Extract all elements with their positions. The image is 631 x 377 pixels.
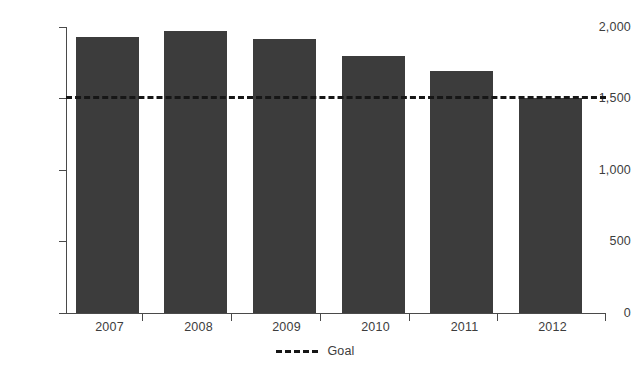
x-tick-label-2009: 2009 (245, 321, 328, 334)
x-tick-mark-2010 (409, 314, 410, 321)
plot-area (66, 27, 606, 313)
bar-2011[interactable] (430, 71, 493, 313)
goal-reference-line (66, 96, 606, 99)
x-tick-label-2007: 2007 (68, 321, 151, 334)
bar-2009[interactable] (253, 39, 316, 313)
x-tick-label-2008: 2008 (157, 321, 240, 334)
x-tick-mark-2007 (142, 314, 143, 321)
bar-2010[interactable] (342, 56, 405, 313)
x-axis-line (66, 313, 606, 314)
bar-2012[interactable] (519, 98, 582, 313)
x-tick-mark-2008 (231, 314, 232, 321)
bar-chart: 2,000 1,500 1,000 500 0 2007 2008 2009 2… (0, 0, 631, 377)
x-tick-label-2010: 2010 (334, 321, 417, 334)
legend-item-goal[interactable]: Goal (327, 345, 354, 358)
bar-2008[interactable] (164, 31, 227, 313)
chart-legend: Goal (0, 345, 631, 358)
x-tick-mark-2012 (605, 314, 606, 321)
bar-2007[interactable] (76, 37, 139, 313)
goal-line-swatch-icon (276, 350, 318, 353)
x-tick-mark-2009 (320, 314, 321, 321)
x-tick-label-2011: 2011 (423, 321, 506, 334)
x-tick-label-2012: 2012 (511, 321, 594, 334)
x-tick-mark-2011 (497, 314, 498, 321)
